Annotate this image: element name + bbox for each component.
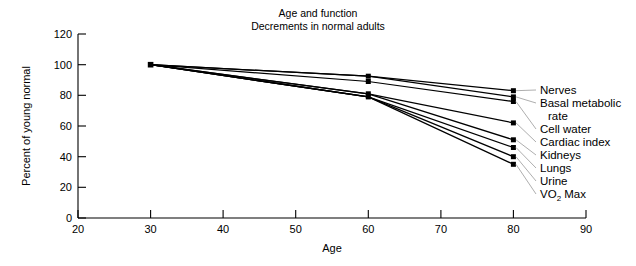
y-ticks [78,34,86,218]
legend-item-nerves[interactable]: Nerves [540,84,577,96]
series-line-lungs [151,65,514,148]
x-tick-label: 40 [217,223,229,235]
legend-item-cell-water[interactable]: Cell water [540,123,591,135]
legend-item-cardiac-index[interactable]: Cardiac index [540,136,611,148]
x-tick-label: 50 [290,223,302,235]
y-tick-label: 100 [54,59,72,71]
data-point [511,88,516,93]
data-point-origin [148,62,154,68]
x-tick-labels: 20 30 40 50 60 70 80 90 [72,223,592,235]
y-tick-label: 80 [60,89,72,101]
leader-line [516,97,536,103]
legend-item-kidneys[interactable]: Kidneys [540,149,581,161]
legend-vo2-suffix: Max [561,188,586,200]
chart-figure: Age and function Decrements in normal ad… [0,0,636,266]
y-tick-label: 20 [60,181,72,193]
data-point [511,120,516,125]
x-tick-label: 80 [507,223,519,235]
y-axis-label: Percent of young normal [20,66,32,186]
y-tick-label: 120 [54,28,72,40]
leader-line [516,148,536,169]
leader-line [516,90,536,91]
legend-vo2-base: VO [540,188,557,200]
legend: Nerves Basal metabolic rate Cell water C… [540,84,621,203]
data-point [366,74,371,79]
x-tick-label: 90 [580,223,592,235]
legend-item-vo2-max[interactable]: VO2 Max [540,188,586,203]
series-line-vo2-max [151,65,514,165]
x-tick-label: 60 [362,223,374,235]
data-point [366,94,371,99]
data-point [511,145,516,150]
line-chart: Age and function Decrements in normal ad… [0,0,636,266]
data-point [511,137,516,142]
y-tick-label: 40 [60,151,72,163]
x-ticks [78,210,586,218]
axes: 0 20 40 60 80 100 120 20 30 40 50 60 70 … [20,28,592,254]
leader-line [516,102,536,130]
x-tick-label: 70 [435,223,447,235]
data-point [511,99,516,104]
x-tick-label: 20 [72,223,84,235]
leader-lines [516,90,536,194]
chart-subtitle: Decrements in normal adults [251,20,385,32]
legend-item-basal-metabolic-rate-line2[interactable]: rate [548,110,568,122]
data-point [511,162,516,167]
x-axis-label: Age [322,242,342,254]
data-point [511,154,516,159]
legend-item-basal-metabolic-rate[interactable]: Basal metabolic [540,97,621,109]
data-point [366,79,371,84]
leader-line [516,123,536,142]
x-tick-label: 30 [144,223,156,235]
legend-item-urine[interactable]: Urine [540,175,567,187]
legend-item-lungs[interactable]: Lungs [540,162,572,174]
data-point [511,94,516,99]
series-group [151,65,514,165]
y-tick-label: 60 [60,120,72,132]
series-markers [148,62,516,167]
leader-line [516,140,536,155]
series-line-cell-water [151,65,514,102]
y-tick-labels: 0 20 40 60 80 100 120 [54,28,72,224]
chart-title: Age and function [279,7,358,19]
